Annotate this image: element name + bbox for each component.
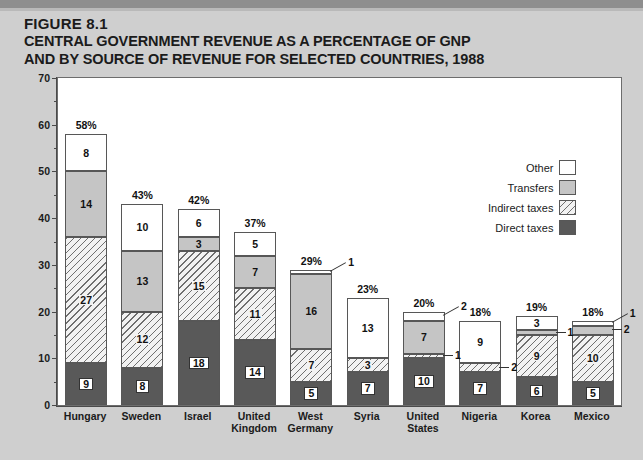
segment-value-label: 12 [136, 334, 150, 345]
legend-label: Indirect taxes [488, 202, 553, 214]
x-label-united-states: UnitedStates [395, 410, 451, 434]
bar-segment-transfers[interactable]: 7 [403, 321, 445, 354]
title-block: FIGURE 8.1 CENTRAL GOVERNMENT REVENUE AS… [24, 16, 624, 67]
legend-item-direct-taxes[interactable]: Direct taxes [488, 220, 576, 235]
bar-segment-indirect-taxes[interactable]: 11 [234, 288, 276, 339]
bar-segment-indirect-taxes[interactable]: 15 [178, 251, 220, 321]
y-tick-minor [54, 288, 57, 289]
bar-sweden[interactable]: 812131043% [121, 204, 163, 405]
segment-value-label: 16 [305, 306, 319, 317]
segment-value-label: 10 [414, 375, 434, 388]
bar-korea[interactable]: 69319% [516, 316, 558, 405]
bar-segment-direct-taxes[interactable]: 7 [459, 372, 501, 405]
bar-segment-other[interactable]: 9 [459, 321, 501, 363]
segment-callout-label: 1 [455, 349, 461, 361]
bar-israel[interactable]: 18153642% [178, 209, 220, 405]
y-tick-minor [54, 195, 57, 196]
bar-segment-other[interactable] [572, 321, 614, 326]
bar-mexico[interactable]: 51018% [572, 321, 614, 405]
segment-value-label: 6 [196, 218, 202, 229]
bar-segment-direct-taxes[interactable]: 5 [572, 382, 614, 405]
bar-segment-other[interactable] [403, 312, 445, 321]
x-label-mexico: Mexico [564, 410, 620, 422]
bar-segment-indirect-taxes[interactable]: 9 [516, 335, 558, 377]
x-label-sweden: Sweden [113, 410, 169, 422]
bar-segment-other[interactable]: 13 [347, 298, 389, 359]
bar-total-label: 29% [301, 255, 322, 267]
bar-segment-direct-taxes[interactable]: 9 [65, 363, 107, 405]
legend-item-transfers[interactable]: Transfers [488, 180, 576, 195]
bar-segment-direct-taxes[interactable]: 18 [178, 321, 220, 405]
segment-value-label: 27 [79, 295, 93, 306]
bar-segment-transfers[interactable] [516, 330, 558, 335]
bar-hungary[interactable]: 92714858% [65, 134, 107, 405]
bar-segment-transfers[interactable]: 7 [234, 256, 276, 289]
bar-segment-transfers[interactable]: 16 [290, 274, 332, 349]
bar-segment-other[interactable]: 8 [65, 134, 107, 171]
bar-syria[interactable]: 731323% [347, 298, 389, 405]
x-label-line: Kingdom [226, 422, 282, 434]
bar-segment-transfers[interactable] [572, 326, 614, 335]
bar-total-label: 19% [526, 301, 547, 313]
x-label-line: Mexico [564, 410, 620, 422]
x-label-line: Nigeria [451, 410, 507, 422]
segment-value-label: 5 [304, 387, 318, 400]
bar-segment-direct-taxes[interactable]: 14 [234, 340, 276, 405]
bar-segment-other[interactable]: 10 [121, 204, 163, 251]
y-tick-major [52, 265, 57, 266]
figure-title-line2: AND BY SOURCE OF REVENUE FOR SELECTED CO… [24, 51, 624, 68]
bar-segment-indirect-taxes[interactable]: 3 [347, 358, 389, 372]
bar-nigeria[interactable]: 7918% [459, 321, 501, 405]
top-rule-secondary [0, 8, 643, 11]
legend-item-indirect-taxes[interactable]: Indirect taxes [488, 200, 576, 215]
bar-segment-direct-taxes[interactable]: 7 [347, 372, 389, 405]
segment-value-label: 6 [530, 385, 544, 398]
segment-value-label: 7 [251, 267, 259, 278]
x-label-west-germany: WestGermany [282, 410, 338, 434]
bar-segment-direct-taxes[interactable]: 6 [516, 377, 558, 405]
bar-total-label: 43% [132, 189, 153, 201]
bar-segment-other[interactable]: 5 [234, 232, 276, 255]
segment-value-label: 11 [248, 309, 261, 320]
bar-segment-other[interactable]: 3 [516, 316, 558, 330]
bar-united-kingdom[interactable]: 14117537% [234, 232, 276, 405]
x-label-nigeria: Nigeria [451, 410, 507, 422]
bar-segment-indirect-taxes[interactable]: 27 [65, 237, 107, 363]
bar-segment-direct-taxes[interactable]: 8 [121, 368, 163, 405]
bar-segment-other[interactable] [290, 270, 332, 275]
y-tick-label: 10 [26, 352, 50, 364]
bar-total-label: 42% [188, 194, 209, 206]
y-tick-label: 30 [26, 259, 50, 271]
y-tick-major [52, 125, 57, 126]
bar-segment-transfers[interactable]: 13 [121, 251, 163, 312]
bar-segment-indirect-taxes[interactable]: 7 [290, 349, 332, 382]
bar-segment-indirect-taxes[interactable]: 12 [121, 312, 163, 368]
bar-segment-other[interactable]: 6 [178, 209, 220, 237]
bar-segment-indirect-taxes[interactable]: 10 [572, 335, 614, 382]
bar-segment-transfers[interactable]: 3 [178, 237, 220, 251]
figure-title-line1: CENTRAL GOVERNMENT REVENUE AS A PERCENTA… [24, 33, 624, 50]
bar-segment-indirect-taxes[interactable] [403, 354, 445, 359]
y-tick-label: 20 [26, 306, 50, 318]
x-label-line: Germany [282, 422, 338, 434]
bar-united-states[interactable]: 10720% [403, 312, 445, 405]
y-tick-major [52, 171, 57, 172]
bar-total-label: 37% [245, 217, 266, 229]
bar-segment-transfers[interactable]: 14 [65, 171, 107, 236]
callout-leader-line [611, 313, 627, 323]
legend-item-other[interactable]: Other [488, 160, 576, 175]
segment-value-label: 18 [189, 357, 209, 370]
segment-value-label: 8 [83, 148, 89, 159]
legend-label: Other [526, 162, 554, 174]
bar-segment-direct-taxes[interactable]: 10 [403, 358, 445, 405]
segment-value-label: 5 [586, 387, 600, 400]
bar-segment-indirect-taxes[interactable] [459, 363, 501, 372]
bar-west-germany[interactable]: 571629% [290, 270, 332, 405]
segment-callout-label: 2 [461, 300, 467, 312]
bar-total-label: 18% [470, 306, 491, 318]
segment-value-label: 9 [477, 337, 483, 348]
y-tick-minor [54, 382, 57, 383]
bar-segment-direct-taxes[interactable]: 5 [290, 382, 332, 405]
y-tick-major [52, 312, 57, 313]
y-tick-label: 50 [26, 165, 50, 177]
